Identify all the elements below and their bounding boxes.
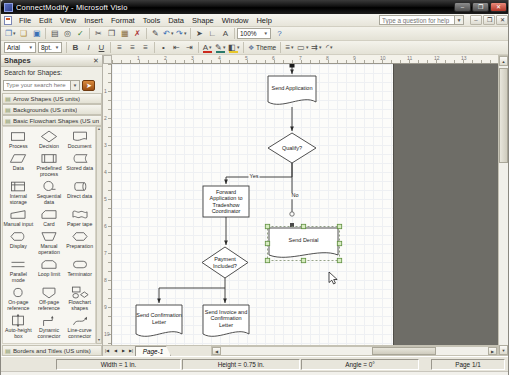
open-button[interactable]: ❏ — [17, 28, 30, 40]
stencil-line-curve-connector[interactable]: Line-curve connector — [64, 313, 95, 341]
delete-button[interactable]: ✗ — [131, 28, 144, 40]
stencil-predefined-process[interactable]: Predefined process — [34, 151, 65, 179]
font-color-button[interactable]: A — [201, 42, 214, 54]
stencil-display[interactable]: Display — [3, 229, 34, 257]
vertical-scrollbar[interactable]: ▲ ▼ — [498, 55, 509, 356]
menu-window[interactable]: Window — [218, 15, 253, 26]
menu-insert[interactable]: Insert — [80, 15, 107, 26]
search-dropdown-icon[interactable]: ▼ — [71, 80, 80, 91]
vertical-scroll-thumb[interactable] — [499, 68, 508, 163]
stencil-parallel-mode[interactable]: Parallel mode — [3, 257, 34, 285]
corner-rounding-button[interactable]: ◜ — [323, 42, 336, 54]
align-center-button[interactable]: ≡ — [126, 42, 139, 54]
theme-button[interactable]: ❖Theme — [246, 42, 278, 54]
connector-tool-button[interactable]: ∟ — [206, 28, 219, 40]
scroll-up-icon[interactable]: ▲ — [499, 56, 508, 66]
stencil-terminator[interactable]: Terminator — [64, 257, 95, 285]
stencil-on-page-reference[interactable]: On-page reference — [3, 285, 34, 313]
stencil-dynamic-connector[interactable]: Dynamic connector — [34, 313, 65, 341]
close-shapes-panel-icon[interactable]: ✕ — [93, 57, 99, 65]
minimize-button[interactable]: – — [454, 2, 471, 12]
fill-color-button[interactable]: ◧ — [227, 42, 241, 54]
save-button[interactable]: ▣ — [30, 28, 43, 40]
decrease-indent-button[interactable]: ⇤ — [170, 42, 183, 54]
close-button[interactable]: ✕ — [490, 2, 507, 12]
font-name-combo-dropdown-icon[interactable]: ▼ — [26, 45, 33, 50]
text-tool-button[interactable]: A — [219, 28, 232, 40]
scroll-right-icon[interactable]: ▶ — [488, 347, 497, 355]
zoom-dropdown-icon[interactable]: ▼ — [261, 31, 268, 36]
section-backgrounds-us-units[interactable]: ▤Backgrounds (US units) — [2, 104, 102, 115]
stencil-scrollbar[interactable]: ▲ ▼ — [96, 126, 102, 344]
horizontal-scroll-thumb[interactable] — [372, 347, 436, 355]
print-button[interactable]: ▤ — [48, 28, 61, 40]
stencil-paper-tape[interactable]: Paper tape — [64, 207, 95, 229]
stencil-direct-data[interactable]: Direct data — [64, 179, 95, 207]
print-preview-button[interactable]: ◎ — [61, 28, 74, 40]
last-page-button[interactable]: ▶| — [127, 346, 135, 356]
cut-button[interactable]: ✂ — [92, 28, 105, 40]
stencil-internal-storage[interactable]: Internal storage — [3, 179, 34, 207]
copy-button[interactable]: ❒ — [105, 28, 118, 40]
question-dropdown-icon[interactable]: ▼ — [455, 15, 464, 25]
maximize-button[interactable]: ❐ — [472, 2, 489, 12]
horizontal-scrollbar[interactable]: ◀ ▶ — [211, 346, 498, 356]
stencil-manual-operation[interactable]: Manual operation — [34, 229, 65, 257]
menu-shape[interactable]: Shape — [188, 15, 218, 26]
previous-page-button[interactable]: ◀ — [111, 346, 119, 356]
stencil-auto-height-box[interactable]: Auto-height box — [3, 313, 34, 341]
shape-search-input[interactable] — [3, 80, 71, 91]
increase-indent-button[interactable]: ⇥ — [183, 42, 196, 54]
stencil-manual-input[interactable]: Manual input — [3, 207, 34, 229]
stencil-process[interactable]: Process — [3, 129, 34, 151]
underline-button[interactable]: U — [95, 42, 108, 54]
menu-help[interactable]: Help — [252, 15, 275, 26]
stencil-data[interactable]: Data — [3, 151, 34, 179]
stencil-sequential-data[interactable]: Sequential data — [34, 179, 65, 207]
search-go-button[interactable]: ➤ — [82, 80, 95, 91]
document-icon[interactable] — [4, 16, 12, 25]
spelling-button[interactable]: ✓ — [74, 28, 87, 40]
help-button[interactable]: ? — [273, 28, 286, 40]
first-page-button[interactable]: |◀ — [103, 346, 111, 356]
undo-button[interactable]: ↶ — [162, 28, 175, 40]
section-borders-and-titles-us-units[interactable]: ▤Borders and Titles (US units) — [2, 345, 102, 356]
section-arrow-shapes-us-units[interactable]: ▤Arrow Shapes (US units) — [2, 93, 102, 104]
line-ends-button[interactable]: ⇉ — [310, 42, 323, 54]
stencil-scroll-down-icon[interactable]: ▼ — [97, 338, 101, 343]
document-close-button[interactable]: ✕ — [496, 15, 508, 25]
stencil-preparation[interactable]: Preparation — [64, 229, 95, 257]
scroll-left-icon[interactable]: ◀ — [212, 347, 221, 355]
menu-format[interactable]: Format — [107, 15, 139, 26]
bold-button[interactable]: B — [69, 42, 82, 54]
stencil-document[interactable]: Document — [64, 129, 95, 151]
menu-data[interactable]: Data — [164, 15, 188, 26]
stencil-card[interactable]: Card — [34, 207, 65, 229]
stencil-decision[interactable]: Decision — [34, 129, 65, 151]
new-button[interactable]: ❐ — [4, 28, 17, 40]
stencil-scroll-up-icon[interactable]: ▲ — [97, 127, 101, 132]
paste-button[interactable]: ▦ — [118, 28, 131, 40]
stencil-annotation[interactable]: A — [34, 341, 65, 344]
question-input[interactable] — [379, 15, 455, 25]
align-left-button[interactable]: ≡ — [113, 42, 126, 54]
format-painter-button[interactable]: ✎ — [149, 28, 162, 40]
font-size-combo[interactable]: 8pt.▼ — [38, 42, 62, 53]
page-tab-page1[interactable]: Page-1 — [135, 346, 171, 356]
menu-view[interactable]: View — [56, 15, 80, 26]
menu-tools[interactable]: Tools — [139, 15, 165, 26]
stencil-stored-data[interactable]: Stored data — [64, 151, 95, 179]
italic-button[interactable]: I — [82, 42, 95, 54]
stencil-off-page-reference[interactable]: Off-page reference — [34, 285, 65, 313]
stencil-flowchart-shapes[interactable]: Flowchart shapes — [64, 285, 95, 313]
document-minimize-button[interactable]: – — [470, 15, 482, 25]
pointer-tool-button[interactable]: ➤ — [193, 28, 206, 40]
line-color-button[interactable]: ✎ — [214, 42, 227, 54]
section-basic-flowchart-shapes-us-units[interactable]: ▤Basic Flowchart Shapes (US units) — [2, 115, 102, 126]
redo-button[interactable]: ↷ — [175, 28, 188, 40]
font-size-combo-dropdown-icon[interactable]: ▼ — [52, 45, 59, 50]
menu-edit[interactable]: Edit — [35, 15, 56, 26]
stencil-control-transfer[interactable] — [3, 341, 34, 344]
zoom-combo[interactable]: 100%▼ — [237, 28, 271, 39]
stencil-loop-limit[interactable]: Loop limit — [34, 257, 65, 285]
